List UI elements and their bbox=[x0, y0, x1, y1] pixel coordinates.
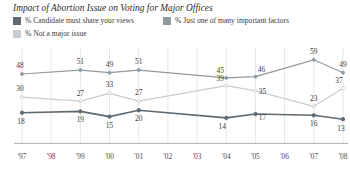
data-label: 51 bbox=[135, 57, 142, 66]
data-label: 49 bbox=[106, 60, 113, 69]
x-axis-tick-label: '04 bbox=[222, 152, 231, 161]
data-point-marker bbox=[341, 118, 344, 121]
data-label: 23 bbox=[310, 94, 317, 103]
data-label: 35 bbox=[259, 87, 266, 96]
data-point-marker bbox=[225, 76, 228, 79]
chart-figure: Impact of Abortion Issue on Voting for M… bbox=[0, 0, 350, 171]
data-label: 17 bbox=[259, 113, 266, 122]
legend-swatch bbox=[13, 17, 21, 25]
x-axis: '97'98'99'00'01'02'03'04'05'06'07'08 bbox=[0, 144, 350, 171]
data-label: 16 bbox=[310, 119, 317, 128]
x-axis-tick-label: '02 bbox=[164, 152, 173, 161]
data-point-marker bbox=[79, 100, 82, 103]
x-axis-tick-label: '00 bbox=[105, 152, 114, 161]
legend-swatch bbox=[13, 30, 21, 38]
x-axis-tick-label: '08 bbox=[339, 152, 348, 161]
data-point-marker bbox=[108, 71, 111, 74]
x-axis-tick-label: '07 bbox=[309, 152, 318, 161]
data-label: 39 bbox=[217, 74, 224, 83]
data-label: 59 bbox=[310, 47, 317, 56]
x-axis-tick-label: '99 bbox=[76, 152, 85, 161]
data-point-marker bbox=[312, 114, 315, 117]
x-axis-tick-label: '06 bbox=[280, 152, 289, 161]
legend-label: % Not a major issue bbox=[25, 30, 87, 38]
data-label: 14 bbox=[219, 122, 226, 131]
data-point-marker bbox=[254, 89, 257, 92]
chart-title: Impact of Abortion Issue on Voting for M… bbox=[13, 3, 213, 13]
x-axis-tick-label: '05 bbox=[251, 152, 260, 161]
data-label: 27 bbox=[135, 88, 142, 97]
data-label: 20 bbox=[135, 114, 142, 123]
data-point-marker bbox=[342, 87, 345, 90]
data-point-marker bbox=[312, 58, 315, 61]
series-line bbox=[22, 110, 343, 119]
data-point-marker bbox=[225, 84, 228, 87]
data-label: 48 bbox=[16, 61, 23, 70]
data-point-marker bbox=[20, 111, 23, 114]
x-axis-tick-label: '97 bbox=[18, 152, 27, 161]
data-label: 19 bbox=[77, 115, 84, 124]
x-axis-tick-label: '98 bbox=[47, 152, 56, 161]
data-point-marker bbox=[225, 116, 228, 119]
data-point-marker bbox=[137, 100, 140, 103]
series-line bbox=[22, 86, 343, 107]
data-point-marker bbox=[254, 75, 257, 78]
legend-item-one-of-many-factors: % Just one of many important factors bbox=[163, 17, 289, 25]
legend-label: % Candidate must share your views bbox=[25, 17, 134, 25]
data-point-marker bbox=[79, 110, 82, 113]
legend-item-candidate-must-share-views: % Candidate must share your views bbox=[13, 17, 134, 25]
data-point-marker bbox=[137, 69, 140, 72]
data-point-marker bbox=[108, 92, 111, 95]
data-point-marker bbox=[137, 109, 140, 112]
data-label: 18 bbox=[17, 117, 24, 126]
data-label: 46 bbox=[258, 65, 265, 74]
legend-swatch bbox=[163, 17, 171, 25]
data-label: 27 bbox=[77, 89, 84, 98]
x-axis-tick-label: '03 bbox=[193, 152, 202, 161]
line-chart-svg bbox=[0, 48, 350, 144]
data-label: 51 bbox=[77, 57, 84, 66]
data-label: 49 bbox=[339, 60, 346, 69]
data-point-marker bbox=[21, 96, 24, 99]
series-line bbox=[22, 60, 343, 78]
data-label: 30 bbox=[16, 84, 23, 93]
data-label: 33 bbox=[106, 80, 113, 89]
data-label: 37 bbox=[335, 76, 342, 85]
data-point-marker bbox=[342, 71, 345, 74]
data-point-marker bbox=[254, 112, 257, 115]
data-label: 13 bbox=[337, 124, 344, 133]
x-axis-tick-label: '01 bbox=[134, 152, 143, 161]
legend-item-not-a-major-issue: % Not a major issue bbox=[13, 30, 87, 38]
data-point-marker bbox=[312, 105, 315, 108]
data-point-marker bbox=[108, 115, 111, 118]
data-point-marker bbox=[79, 69, 82, 72]
plot-area bbox=[0, 48, 350, 144]
legend-label: % Just one of many important factors bbox=[175, 17, 289, 25]
data-point-marker bbox=[21, 73, 24, 76]
data-label: 15 bbox=[106, 121, 113, 130]
